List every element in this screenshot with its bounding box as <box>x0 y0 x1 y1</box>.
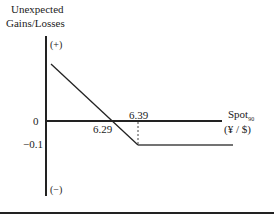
x-axis-label: Spot90 <box>228 109 254 122</box>
x-axis-subscript: 90 <box>248 116 254 122</box>
x-axis-units: (¥ / $) <box>224 124 251 135</box>
y-axis-title-line1: Unexpected <box>11 4 64 15</box>
zero-label: 0 <box>33 116 39 127</box>
strike-label: 6.39 <box>129 110 148 121</box>
minus-label: (−) <box>50 185 62 195</box>
breakeven-label: 6.29 <box>93 124 112 135</box>
y-axis-title-line2: Gains/Losses <box>6 18 65 29</box>
plus-label: (+) <box>50 40 62 50</box>
x-axis-label-text: Spot <box>228 108 248 120</box>
neg-label: −0.1 <box>23 139 43 150</box>
